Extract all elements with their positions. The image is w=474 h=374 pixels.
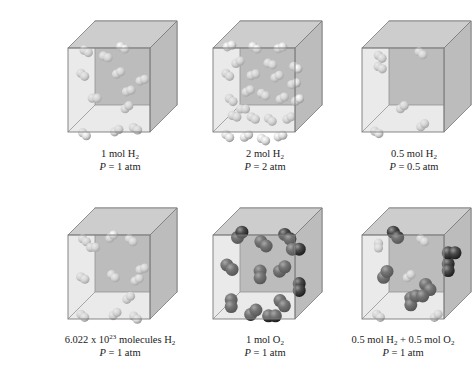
cube-5 [213,208,322,322]
panel-5-pressure: P = 1 atm [205,346,325,359]
panel-1-label: 1 mol H2 P = 1 atm [60,147,180,173]
panel-3-label: 0.5 mol H2 P = 0.5 atm [354,147,474,173]
cube-2 [213,21,322,145]
panel-4-label: 6.022 x 1023 molecules H2 P = 1 atm [30,333,210,359]
cube-6 [362,208,471,322]
panel-6-label: 0.5 mol H2 + 0.5 mol O2 P = 1 atm [328,333,474,359]
cube-1 [68,21,177,140]
panel-6-pressure: P = 1 atm [328,346,474,359]
panel-4-pressure: P = 1 atm [30,346,210,359]
panel-2-pressure: P = 2 atm [205,160,325,173]
panel-1-amount: 1 mol H2 [60,147,180,160]
panel-1-pressure: P = 1 atm [60,160,180,173]
panel-5-label: 1 mol O2 P = 1 atm [205,333,325,359]
cube-3 [362,21,471,138]
cube-4 [68,208,177,324]
panel-3-pressure: P = 0.5 atm [354,160,474,173]
panel-2-label: 2 mol H2 P = 2 atm [205,147,325,173]
panel-2-amount: 2 mol H2 [205,147,325,160]
panel-6-amount: 0.5 mol H2 + 0.5 mol O2 [328,333,474,346]
panel-5-amount: 1 mol O2 [205,333,325,346]
panel-3-amount: 0.5 mol H2 [354,147,474,160]
gas-cubes-figure [0,0,474,374]
panel-4-amount: 6.022 x 1023 molecules H2 [30,333,210,346]
